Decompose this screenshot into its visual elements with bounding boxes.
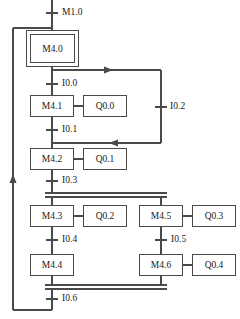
step-box-m4-4[interactable]: M4.4 [30,254,74,276]
arrowhead-left-bottom [109,140,118,147]
action-box-q0-3[interactable]: Q0.3 [192,205,236,227]
arrowhead-up-return [10,174,17,183]
step-box-m4-6[interactable]: M4.6 [139,254,183,276]
transition-label-i0-2: I0.2 [170,102,185,112]
sfc-diagram: M1.0 I0.0 I0.1 I0.2 I0.3 I0.4 I0.5 I0.6 … [0,0,240,319]
transition-label-i0-1: I0.1 [62,125,77,135]
transition-label-i0-6: I0.6 [62,294,77,304]
step-label-m4-0: M4.0 [30,34,75,63]
action-box-q0-0[interactable]: Q0.0 [83,95,127,117]
action-box-q0-4[interactable]: Q0.4 [192,254,236,276]
transition-label-i0-3: I0.3 [62,176,77,186]
transition-label-i0-0: I0.0 [62,79,77,89]
action-box-q0-1[interactable]: Q0.1 [83,148,127,170]
step-box-m4-3[interactable]: M4.3 [30,205,74,227]
step-box-m4-0-initial[interactable]: M4.0 [26,30,79,67]
transition-label-i0-4: I0.4 [62,235,77,245]
transition-label-i0-5: I0.5 [171,235,186,245]
action-box-q0-2[interactable]: Q0.2 [83,205,127,227]
arrowhead-right-top [104,67,113,74]
step-box-m4-5[interactable]: M4.5 [139,205,183,227]
step-box-m4-1[interactable]: M4.1 [30,95,74,117]
step-box-m4-2[interactable]: M4.2 [30,148,74,170]
transition-label-m1-0: M1.0 [62,8,83,18]
